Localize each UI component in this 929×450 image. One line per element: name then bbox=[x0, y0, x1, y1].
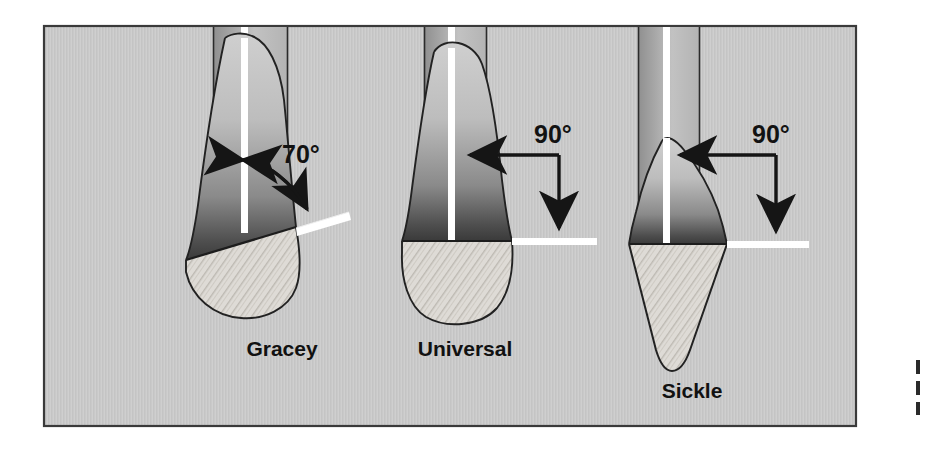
gracey-blade-highlight bbox=[241, 38, 248, 233]
universal-face-reference-line bbox=[512, 238, 597, 245]
universal-label: Universal bbox=[418, 337, 513, 360]
universal-blade-highlight bbox=[448, 48, 455, 241]
sickle-label: Sickle bbox=[662, 379, 723, 402]
sickle-blade-highlight bbox=[663, 138, 670, 244]
edge-text-fragment bbox=[916, 360, 920, 374]
sickle-angle-label: 90° bbox=[752, 120, 790, 148]
gracey-label: Gracey bbox=[246, 337, 318, 360]
sickle-face-reference-line bbox=[727, 241, 809, 248]
gracey-angle-label: 70° bbox=[282, 140, 320, 168]
instrument-angulation-figure: 70° Gracey bbox=[0, 0, 929, 450]
universal-angle-label: 90° bbox=[534, 120, 572, 148]
edge-text-fragment bbox=[916, 381, 920, 395]
figure-canvas: 70° Gracey bbox=[0, 0, 929, 450]
edge-text-fragment bbox=[916, 402, 920, 415]
